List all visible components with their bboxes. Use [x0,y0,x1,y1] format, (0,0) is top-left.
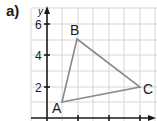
y-tick-label-4: 4 [35,49,42,63]
grid-lines [31,8,157,121]
y-axis-arrow-icon [44,6,50,14]
vertex-label-c: C [143,81,153,97]
y-axis-label: y [37,6,44,17]
y-tick-label-2: 2 [35,81,42,95]
y-tick-label-6: 6 [35,18,42,32]
coordinate-grid-diagram: y 6 4 2 A B C [0,0,157,121]
vertex-label-b: B [70,22,79,38]
vertex-label-a: A [52,100,62,116]
